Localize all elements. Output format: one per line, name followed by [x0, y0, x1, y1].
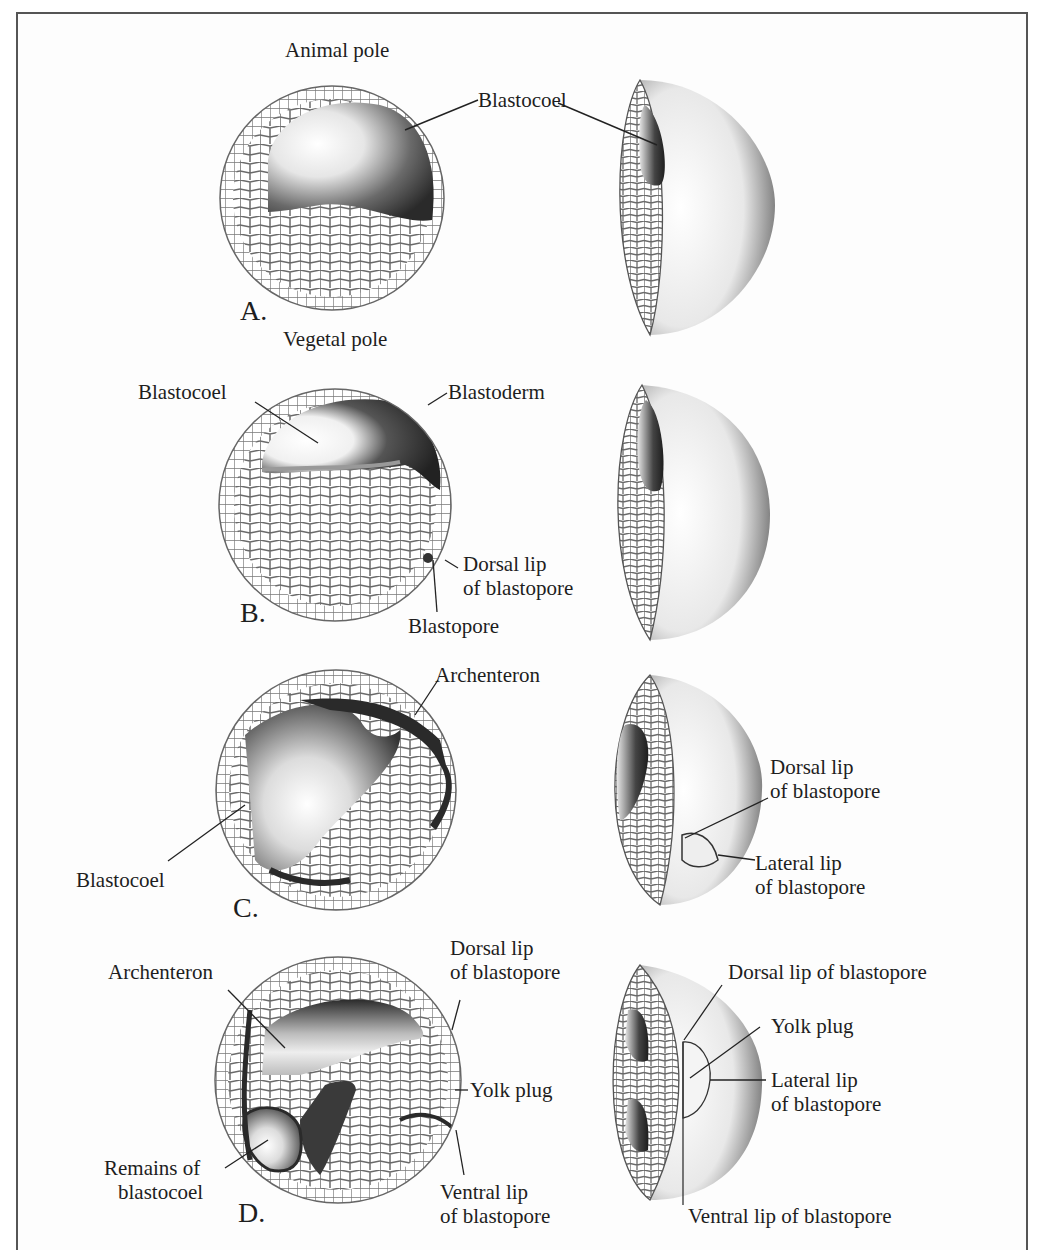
label-dorsal-lip-b-2: of blastopore	[463, 576, 573, 600]
panel-b-section	[219, 389, 451, 621]
label-remains-blastocoel-1: Remains of	[104, 1156, 200, 1180]
panel-c-cutaway	[615, 675, 768, 905]
panel-d-cutaway	[613, 965, 766, 1205]
label-ventral-lip-d-2: of blastopore	[440, 1204, 550, 1228]
label-blastopore: Blastopore	[408, 614, 499, 638]
label-lateral-lip-c-2: of blastopore	[755, 875, 865, 899]
panel-c-section	[216, 670, 456, 910]
label-archenteron-d: Archenteron	[108, 960, 213, 984]
label-blastoderm: Blastoderm	[448, 380, 545, 404]
stage-label-d: D.	[238, 1198, 265, 1228]
label-ventral-lip-d-1: Ventral lip	[440, 1180, 528, 1204]
label-lateral-lip-d-1: Lateral lip	[771, 1068, 858, 1092]
label-dorsal-lip-c-2: of blastopore	[770, 779, 880, 803]
label-blastocoel-b: Blastocoel	[138, 380, 227, 404]
label-dorsal-lip-d-2: of blastopore	[450, 960, 560, 984]
stage-label-b: B.	[240, 598, 266, 628]
label-dorsal-lip-cutaway-d: Dorsal lip of blastopore	[728, 960, 927, 984]
panel-d-section	[215, 957, 461, 1203]
label-dorsal-lip-c-1: Dorsal lip	[770, 755, 853, 779]
panel-a-cutaway	[558, 80, 775, 335]
label-remains-blastocoel-2: blastocoel	[118, 1180, 203, 1204]
label-blastocoel-c: Blastocoel	[76, 868, 165, 892]
panel-b-cutaway	[618, 385, 770, 640]
panel-a-section	[220, 86, 444, 310]
label-blastocoel-a: Blastocoel	[478, 88, 567, 112]
label-ventral-lip-cutaway-d: Ventral lip of blastopore	[688, 1204, 892, 1228]
label-vegetal-pole: Vegetal pole	[283, 327, 387, 351]
embryo-illustrations	[0, 0, 1046, 1250]
label-lateral-lip-d-2: of blastopore	[771, 1092, 881, 1116]
label-yolk-plug-cutaway: Yolk plug	[771, 1014, 853, 1038]
label-archenteron-c: Archenteron	[435, 663, 540, 687]
label-yolk-plug-d: Yolk plug	[470, 1078, 552, 1102]
stage-label-a: A.	[240, 296, 267, 326]
label-dorsal-lip-d-1: Dorsal lip	[450, 936, 533, 960]
label-animal-pole: Animal pole	[285, 38, 389, 62]
stage-label-c: C.	[233, 893, 259, 923]
label-dorsal-lip-b-1: Dorsal lip	[463, 552, 546, 576]
label-lateral-lip-c-1: Lateral lip	[755, 851, 842, 875]
